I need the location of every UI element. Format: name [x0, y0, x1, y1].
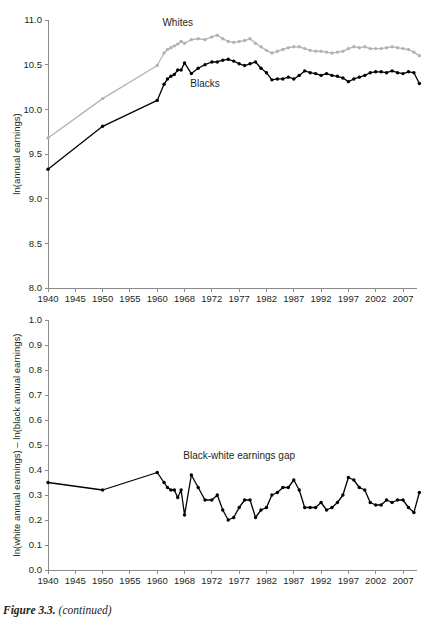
top-chart-svg: 8.08.59.09.510.010.511.01940194519501955… [0, 0, 425, 310]
figure-caption-note: (continued) [56, 604, 112, 616]
data-point-marker [369, 71, 372, 74]
data-point-marker [363, 45, 366, 48]
data-point-marker [330, 74, 333, 77]
data-point-marker [336, 50, 339, 53]
data-point-marker [183, 61, 186, 64]
data-point-marker [179, 40, 182, 43]
data-point-marker [298, 488, 301, 491]
x-tick-label: 2002 [365, 575, 386, 586]
data-point-marker [46, 481, 49, 484]
data-point-marker [325, 72, 328, 75]
x-tick-label: 1960 [147, 293, 168, 304]
data-point-marker [308, 506, 311, 509]
data-point-marker [276, 77, 279, 80]
x-tick-label: 1950 [92, 293, 113, 304]
data-point-marker [347, 47, 350, 50]
data-point-marker [352, 77, 355, 80]
data-point-marker [265, 49, 268, 52]
data-point-marker [407, 48, 410, 51]
data-point-marker [243, 39, 246, 42]
x-tick-label: 1972 [201, 293, 222, 304]
data-point-marker [169, 488, 172, 491]
data-point-marker [173, 488, 176, 491]
data-point-marker [374, 70, 377, 73]
data-point-marker [390, 501, 393, 504]
chart-panel-top: 8.08.59.09.510.010.511.01940194519501955… [0, 0, 425, 310]
data-point-marker [341, 493, 344, 496]
data-point-marker [196, 486, 199, 489]
data-point-marker [379, 70, 382, 73]
y-tick-label: 1.0 [29, 314, 42, 325]
data-point-marker [281, 48, 284, 51]
data-point-marker [379, 47, 382, 50]
data-point-marker [190, 473, 193, 476]
x-tick-label: 1982 [256, 293, 277, 304]
x-tick-label: 2002 [365, 293, 386, 304]
data-point-marker [303, 47, 306, 50]
x-tick-label: 1987 [283, 293, 304, 304]
data-point-marker [407, 506, 410, 509]
data-point-marker [216, 33, 219, 36]
data-point-marker [347, 476, 350, 479]
data-point-marker [101, 125, 104, 128]
data-point-marker [196, 67, 199, 70]
data-point-marker [216, 493, 219, 496]
axes-group: 8.08.59.09.510.010.511.01940194519501955… [24, 14, 418, 303]
data-point-marker [221, 508, 224, 511]
data-point-marker [363, 74, 366, 77]
x-tick-label: 1960 [147, 575, 168, 586]
data-point-marker [336, 501, 339, 504]
data-point-marker [221, 59, 224, 62]
x-tick-label: 1977 [229, 575, 250, 586]
data-point-marker [227, 518, 230, 521]
data-point-marker [401, 498, 404, 501]
data-point-marker [237, 40, 240, 43]
series-annotation: Black-white earnings gap [183, 450, 295, 461]
data-point-marker [281, 486, 284, 489]
y-axis-title: ln(annual earnings) [11, 113, 22, 194]
y-tick-label: 0.4 [29, 464, 42, 475]
data-point-marker [287, 46, 290, 49]
x-tick-label: 1997 [338, 293, 359, 304]
data-point-marker [314, 72, 317, 75]
data-point-marker [298, 45, 301, 48]
data-point-marker [248, 62, 251, 65]
data-point-marker [319, 501, 322, 504]
y-tick-label: 10.5 [24, 59, 43, 70]
y-tick-label: 0.9 [29, 339, 42, 350]
data-point-marker [358, 75, 361, 78]
data-point-marker [358, 486, 361, 489]
series-annotation: Whites [162, 17, 193, 28]
data-point-marker [183, 513, 186, 516]
data-point-marker [203, 63, 206, 66]
data-point-marker [374, 47, 377, 50]
data-point-marker [412, 71, 415, 74]
data-point-marker [254, 42, 257, 45]
data-point-marker [341, 76, 344, 79]
data-point-marker [308, 71, 311, 74]
data-point-marker [369, 47, 372, 50]
data-point-marker [374, 503, 377, 506]
y-tick-label: 11.0 [24, 14, 42, 25]
y-tick-label: 0.2 [29, 514, 42, 525]
data-point-marker [46, 136, 49, 139]
data-point-marker [281, 77, 284, 80]
x-tick-label: 1940 [37, 293, 58, 304]
data-point-marker [276, 491, 279, 494]
data-point-marker [166, 48, 169, 51]
data-point-marker [232, 516, 235, 519]
data-point-marker [396, 71, 399, 74]
y-tick-label: 9.5 [29, 148, 42, 159]
data-point-marker [190, 72, 193, 75]
series-1 [46, 33, 421, 139]
data-point-marker [179, 68, 182, 71]
data-point-marker [173, 73, 176, 76]
x-tick-label: 1955 [119, 293, 140, 304]
x-tick-label: 1992 [311, 293, 332, 304]
data-point-marker [270, 493, 273, 496]
data-point-marker [363, 488, 366, 491]
data-point-marker [347, 80, 350, 83]
data-point-marker [227, 40, 230, 43]
data-point-marker [176, 68, 179, 71]
data-point-marker [390, 45, 393, 48]
